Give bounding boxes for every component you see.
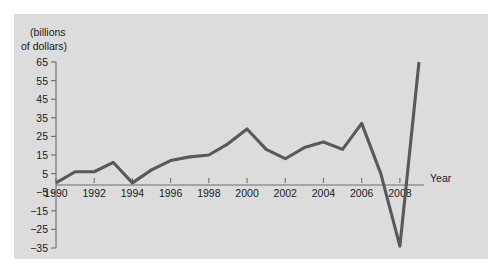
y-tick-label: −35	[30, 242, 48, 254]
x-axis-title: Year	[430, 172, 452, 184]
y-tick-label: 25	[36, 130, 48, 142]
x-tick-label: 2006	[350, 187, 374, 199]
x-tick-label: 2000	[235, 187, 259, 199]
y-tick-label: −25	[30, 223, 48, 235]
y-axis-title-line1: (billions	[30, 26, 66, 38]
x-tick-label: 1996	[159, 187, 183, 199]
x-tick-label: 1994	[121, 187, 145, 199]
x-axis-ticks: 1990199219941996199820002002200420062008	[44, 178, 411, 199]
y-tick-label: 45	[36, 93, 48, 105]
chart-figure-panel: (billions of dollars) 6555453525155−5−15…	[14, 14, 488, 259]
data-series-line	[56, 62, 419, 246]
y-tick-label: 15	[36, 149, 48, 161]
x-tick-label: 2008	[388, 187, 412, 199]
y-tick-label: 65	[36, 56, 48, 68]
line-chart: (billions of dollars) 6555453525155−5−15…	[14, 14, 488, 259]
y-tick-label: 35	[36, 112, 48, 124]
y-axis-title-line2: of dollars)	[21, 40, 67, 52]
x-tick-label: 2004	[312, 187, 336, 199]
y-tick-label: 5	[42, 168, 48, 180]
x-tick-label: 1998	[197, 187, 221, 199]
x-tick-label: 2002	[274, 187, 298, 199]
y-axis-title: (billions of dollars)	[21, 26, 67, 52]
y-axis-ticks: 6555453525155−5−15−25−35	[30, 56, 56, 254]
y-tick-label: −15	[30, 205, 48, 217]
y-tick-label: 55	[36, 75, 48, 87]
x-tick-label: 1992	[83, 187, 107, 199]
